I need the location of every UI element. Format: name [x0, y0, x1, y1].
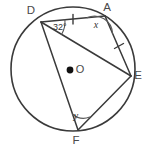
angle-label-x: x [93, 19, 99, 30]
vertex-label-D: D [27, 4, 35, 16]
vertex-label-E: E [134, 69, 142, 81]
vertex-label-F: F [72, 134, 79, 146]
angle-label-y: y [73, 110, 79, 121]
geometry-figure: D A E F O 32° x y [0, 0, 147, 148]
angle-label-32deg: 32° [53, 22, 67, 32]
geometry-canvas: D A E F O 32° x y [0, 0, 147, 148]
vertex-label-A: A [103, 1, 111, 13]
circle-center-dot [67, 67, 74, 74]
center-label-O: O [76, 63, 85, 75]
